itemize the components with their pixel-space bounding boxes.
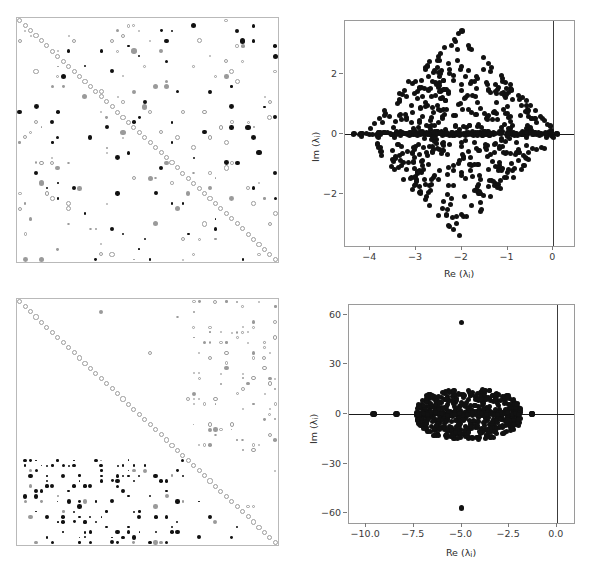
- matrix-entry: [171, 141, 174, 144]
- matrix-entry: [115, 155, 120, 160]
- matrix-entry: [18, 207, 22, 211]
- eigenvalue-point: [516, 417, 521, 422]
- matrix-entry: [214, 434, 216, 436]
- matrix-entry: [203, 443, 207, 447]
- eigenvalue-point: [516, 158, 521, 163]
- matrix-entry: [257, 253, 261, 257]
- eigenvalue-point: [526, 108, 531, 113]
- eigenvalue-point: [451, 183, 456, 188]
- matrix-entry: [62, 531, 64, 533]
- matrix-entry: [170, 181, 173, 184]
- matrix-entry: [207, 196, 212, 201]
- eigenvalue-point: [370, 132, 375, 137]
- eigen-bottom-xlabel: Re (λi): [446, 547, 476, 559]
- matrix-entry: [109, 252, 114, 257]
- eigenvalue-point: [421, 403, 426, 408]
- matrix-entry: [56, 110, 60, 114]
- matrix-entry: [142, 417, 147, 422]
- matrix-entry: [106, 152, 108, 154]
- matrix-entry: [193, 398, 195, 400]
- matrix-entry: [23, 304, 28, 309]
- matrix-entry: [268, 377, 271, 380]
- eigenvalue-point: [436, 433, 441, 438]
- matrix-entry: [274, 388, 276, 390]
- matrix-entry: [165, 541, 169, 545]
- matrix-entry: [50, 484, 54, 488]
- matrix-entry: [252, 351, 256, 355]
- eigenvalue-point: [504, 420, 509, 425]
- matrix-entry: [175, 448, 180, 453]
- ylabel-lambda: λ: [310, 138, 321, 144]
- matrix-entry: [268, 381, 272, 385]
- matrix-entry: [57, 501, 58, 502]
- matrix-entry: [50, 196, 55, 201]
- eigenvalue-point: [458, 67, 463, 72]
- eigenvalue-point: [447, 142, 452, 147]
- matrix-entry: [110, 499, 114, 503]
- matrix-entry: [269, 352, 271, 354]
- matrix-entry: [268, 413, 271, 416]
- matrix-entry: [115, 110, 120, 115]
- matrix-entry: [34, 489, 38, 493]
- eigenvalue-point: [510, 97, 515, 102]
- eigenvalue-point: [478, 200, 483, 205]
- matrix-entry: [72, 350, 77, 355]
- matrix-entry: [24, 202, 27, 205]
- matrix-entry: [213, 520, 217, 524]
- eigenvalue-point: [431, 110, 436, 115]
- matrix-entry: [256, 525, 261, 530]
- eigenvalue-point: [485, 82, 490, 87]
- eigenvalue-point: [444, 432, 449, 437]
- matrix-entry: [231, 429, 232, 430]
- eigenvalue-point: [492, 142, 497, 147]
- matrix-entry: [263, 106, 265, 108]
- matrix-entry: [246, 382, 250, 386]
- matrix-entry: [191, 145, 196, 150]
- matrix-entry: [120, 115, 125, 120]
- x-tick-label: −3: [408, 251, 422, 262]
- matrix-entry: [132, 469, 135, 472]
- eigenvalue-point: [402, 88, 407, 93]
- matrix-entry: [24, 464, 26, 466]
- matrix-entry: [46, 187, 48, 189]
- x-tick: [556, 523, 557, 527]
- matrix-entry: [61, 74, 66, 79]
- eigenvalue-point: [451, 163, 456, 168]
- matrix-entry: [72, 39, 76, 43]
- eigenvalue-point: [418, 105, 423, 110]
- matrix-entry: [236, 336, 239, 339]
- matrix-entry: [159, 432, 164, 437]
- matrix-entry: [51, 85, 55, 89]
- eigenvalue-point: [474, 86, 479, 91]
- matrix-entry: [77, 74, 82, 79]
- matrix-entry: [186, 176, 191, 181]
- y-tick-label: 60: [308, 308, 341, 319]
- matrix-entry: [236, 331, 239, 334]
- matrix-entry: [176, 316, 178, 318]
- matrix-entry: [132, 24, 135, 27]
- eigenvalue-point: [396, 165, 401, 170]
- matrix-entry: [122, 75, 124, 77]
- x-tick-label: −4: [362, 251, 376, 262]
- matrix-entry: [169, 160, 174, 165]
- eigenvalue-point: [426, 87, 431, 92]
- matrix-entry: [224, 351, 228, 355]
- matrix-entry: [187, 233, 190, 236]
- eigenvalue-point: [451, 227, 456, 232]
- matrix-entry: [213, 484, 218, 489]
- matrix-entry: [153, 221, 158, 226]
- matrix-entry: [251, 376, 255, 380]
- matrix-entry: [231, 332, 233, 334]
- matrix-entry: [253, 126, 255, 128]
- eigenvalue-point: [462, 96, 467, 101]
- matrix-entry: [50, 161, 54, 165]
- eigenvalue-point: [516, 412, 521, 417]
- matrix-entry: [29, 131, 33, 135]
- matrix-entry: [247, 331, 249, 333]
- matrix-entry: [235, 79, 240, 84]
- matrix-entry: [45, 191, 49, 195]
- matrix-entry: [181, 110, 185, 114]
- eigenvalue-point: [424, 123, 429, 128]
- matrix-entry: [78, 516, 80, 518]
- matrix-entry: [176, 521, 178, 523]
